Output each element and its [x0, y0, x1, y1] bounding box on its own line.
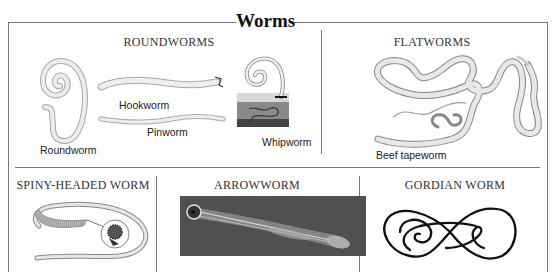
section-spiny-headed-worm: SPINY-HEADED WORM [9, 168, 156, 272]
whipworm-illustration [235, 53, 295, 133]
section-heading-gordian-worm: GORDIAN WORM [390, 178, 520, 193]
spiny-headed-worm-illustration [23, 196, 153, 268]
section-gordian-worm: GORDIAN WORM [360, 168, 547, 272]
label-beef-tapeworm: Beef tapeworm [376, 149, 447, 161]
section-heading-spiny-headed-worm: SPINY-HEADED WORM [9, 178, 157, 193]
pinworm-illustration [97, 111, 227, 127]
section-heading-arrowworm: ARROWWORM [197, 178, 317, 193]
section-heading-flatworms: FLATWORMS [372, 35, 492, 50]
hookworm-illustration [97, 73, 227, 95]
section-heading-roundworms: ROUNDWORMS [109, 35, 229, 50]
beef-tapeworm-illustration [372, 55, 542, 147]
label-whipworm: Whipworm [262, 136, 312, 148]
section-roundworms: ROUNDWORMS Roundworm Hookworm Pinworm Wh… [9, 23, 321, 167]
roundworm-illustration [39, 57, 99, 152]
label-roundworm: Roundworm [40, 144, 97, 156]
label-hookworm: Hookworm [119, 99, 169, 111]
frame-right-border [547, 22, 548, 272]
section-flatworms: FLATWORMS Beef tapeworm [322, 23, 547, 167]
label-pinworm: Pinworm [147, 126, 188, 138]
section-arrowworm: ARROWWORM [157, 168, 359, 272]
gordian-worm-illustration [380, 202, 520, 264]
arrowworm-illustration [180, 196, 366, 256]
